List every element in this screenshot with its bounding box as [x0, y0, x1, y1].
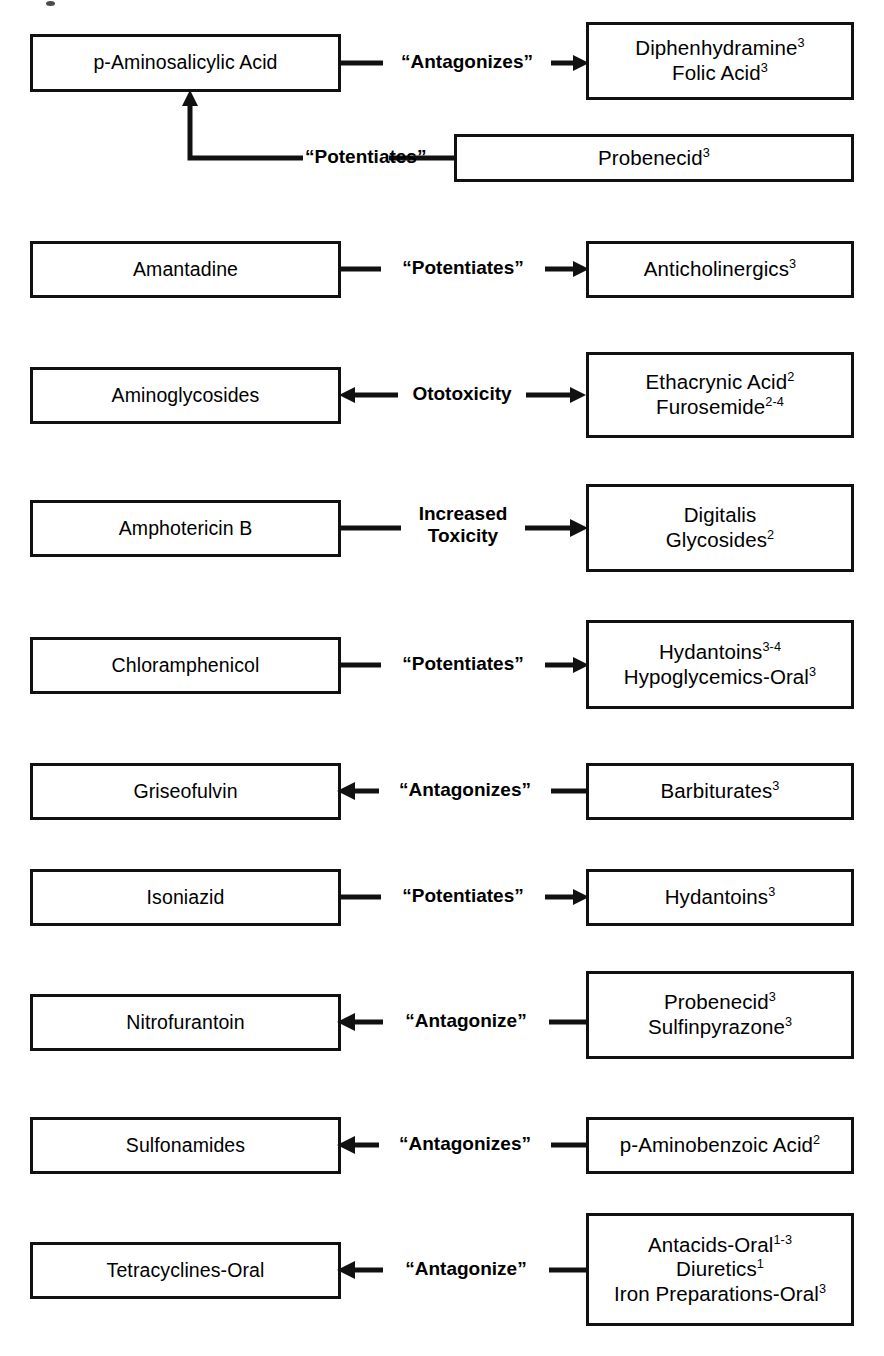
node-digitalis-glycosides[interactable]: Digitalis Glycosides2 [586, 484, 854, 572]
node-label-line-2: Sulfinpyrazone3 [648, 1015, 792, 1040]
node-label: Nitrofurantoin [126, 1011, 244, 1034]
superscript-ref: 3 [769, 990, 776, 1005]
superscript-ref: 2 [787, 370, 794, 385]
edge-label-ototoxicity: Ototoxicity [398, 383, 526, 405]
node-label-line-2: Hypoglycemics-Oral3 [624, 665, 816, 690]
node-amantadine[interactable]: Amantadine [30, 241, 341, 298]
superscript-ref: 3-4 [762, 639, 781, 654]
edge-label-antagonizes-1: “Antagonizes” [383, 51, 551, 73]
node-tetracyclines-oral[interactable]: Tetracyclines-Oral [30, 1242, 341, 1299]
node-diphenhydramine-folic-acid[interactable]: Diphenhydramine3 Folic Acid3 [586, 22, 854, 100]
superscript-ref: 3 [768, 884, 775, 899]
node-ethacrynic-acid-furosemide[interactable]: Ethacrynic Acid2 Furosemide2-4 [586, 352, 854, 438]
node-probenecid[interactable]: Probenecid3 [454, 134, 854, 182]
edge-label-antagonize-2: “Antagonize” [383, 1258, 549, 1280]
node-p-aminosalicylic-acid[interactable]: p-Aminosalicylic Acid [30, 34, 341, 92]
node-nitrofurantoin[interactable]: Nitrofurantoin [30, 994, 341, 1051]
superscript-ref: 3 [703, 145, 710, 160]
node-label: Griseofulvin [133, 780, 237, 803]
node-label-line-1: Ethacrynic Acid2 [646, 370, 795, 395]
node-isoniazid[interactable]: Isoniazid [30, 869, 341, 926]
edge-label-antagonizes-2: “Antagonizes” [379, 779, 551, 801]
superscript-ref: 3 [772, 778, 779, 793]
node-label: Barbiturates3 [661, 779, 780, 804]
superscript-ref: 3 [785, 1014, 792, 1029]
edge-label-potentiates-3: “Potentiates” [381, 653, 545, 675]
edge-label-antagonizes-3: “Antagonizes” [379, 1133, 551, 1155]
node-label: p-Aminobenzoic Acid2 [620, 1133, 821, 1158]
superscript-ref: 3 [819, 1281, 826, 1296]
node-label-line-2: Diuretics1 [676, 1257, 764, 1282]
node-label: Probenecid3 [598, 146, 710, 171]
node-label: Amphotericin B [119, 517, 253, 540]
node-label-line-1: Probenecid3 [664, 990, 776, 1015]
node-barbiturates[interactable]: Barbiturates3 [586, 763, 854, 820]
superscript-ref: 3 [761, 60, 768, 75]
node-label-line-2: Folic Acid3 [672, 61, 768, 86]
node-label-line-2: Furosemide2-4 [656, 395, 784, 420]
edge-label-antagonize-1: “Antagonize” [383, 1010, 549, 1032]
superscript-ref: 2-4 [765, 394, 784, 409]
node-aminoglycosides[interactable]: Aminoglycosides [30, 367, 341, 424]
node-label-line-3: Iron Preparations-Oral3 [614, 1282, 826, 1307]
node-label: Chloramphenicol [112, 654, 260, 677]
superscript-ref: 2 [767, 527, 774, 542]
edge-label-potentiates-2: “Potentiates” [381, 257, 545, 279]
node-antacids-diuretics-iron[interactable]: Antacids-Oral1-3 Diuretics1 Iron Prepara… [586, 1213, 854, 1326]
edge-label-potentiates-4: “Potentiates” [381, 885, 545, 907]
edge-label-increased-toxicity: Increased Toxicity [401, 503, 525, 547]
node-label: Aminoglycosides [112, 384, 260, 407]
node-label: Sulfonamides [126, 1134, 245, 1157]
node-label-line-1: Digitalis [684, 503, 757, 528]
node-griseofulvin[interactable]: Griseofulvin [30, 763, 341, 820]
node-label: Tetracyclines-Oral [107, 1259, 265, 1282]
node-label: Isoniazid [147, 886, 225, 909]
node-p-aminobenzoic-acid[interactable]: p-Aminobenzoic Acid2 [586, 1117, 854, 1174]
node-label-line-1: Antacids-Oral1-3 [648, 1233, 792, 1258]
superscript-ref: 1 [757, 1256, 764, 1271]
node-hydantoins-hypoglycemics[interactable]: Hydantoins3-4 Hypoglycemics-Oral3 [586, 620, 854, 709]
superscript-ref: 2 [813, 1132, 820, 1147]
superscript-ref: 3 [809, 664, 816, 679]
node-label-line-2: Glycosides2 [666, 528, 774, 553]
node-sulfonamides[interactable]: Sulfonamides [30, 1117, 341, 1174]
superscript-ref: 3 [798, 36, 805, 51]
node-hydantoins[interactable]: Hydantoins3 [586, 869, 854, 926]
node-amphotericin-b[interactable]: Amphotericin B [30, 500, 341, 557]
node-label-line-1: Hydantoins3-4 [659, 640, 781, 665]
edge-label-potentiates-1: “Potentiates” [303, 146, 389, 168]
node-label: p-Aminosalicylic Acid [93, 51, 277, 74]
superscript-ref: 1-3 [773, 1232, 792, 1247]
scan-artifact [46, 1, 55, 6]
drug-interaction-diagram: Diphenhydramine --> (elbow up into PAS b… [0, 0, 884, 1356]
node-label: Amantadine [133, 258, 238, 281]
superscript-ref: 3 [789, 256, 796, 271]
node-anticholinergics[interactable]: Anticholinergics3 [586, 241, 854, 298]
node-label: Anticholinergics3 [644, 257, 796, 282]
node-probenecid-sulfinpyrazone[interactable]: Probenecid3 Sulfinpyrazone3 [586, 971, 854, 1059]
node-label-line-1: Diphenhydramine3 [635, 36, 804, 61]
node-label: Hydantoins3 [665, 885, 776, 910]
node-chloramphenicol[interactable]: Chloramphenicol [30, 637, 341, 694]
